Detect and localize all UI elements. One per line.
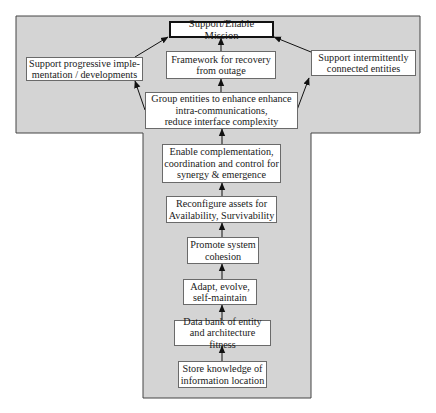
node-support-enable-mission: Support/Enable Mission [169, 21, 274, 38]
node-enable-complementation: Enable complementation, coordination and… [162, 144, 281, 183]
node-adapt-evolve: Adapt, evolve, self-maintain [183, 279, 257, 305]
node-data-bank: Data bank of entity and architecture fit… [174, 320, 271, 346]
node-reconfigure-assets: Reconfigure assets for Availability, Sur… [166, 196, 277, 223]
node-support-progressive-implementation: Support progressive imple- mentation / d… [26, 57, 143, 81]
node-promote-system-cohesion: Promote system cohesion [187, 237, 259, 264]
node-framework-for-recovery: Framework for recovery from outage [166, 51, 276, 79]
node-support-intermittently-connected: Support intermittently connected entitie… [311, 50, 416, 76]
node-group-entities: Group entities to enhance enhance intra-… [145, 92, 298, 129]
diagram-canvas: Support/Enable Mission Support progressi… [0, 0, 436, 413]
node-store-knowledge: Store knowledge of information location [178, 361, 267, 388]
